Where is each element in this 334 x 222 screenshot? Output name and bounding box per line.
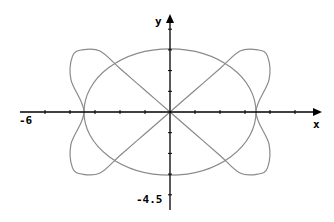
- axes: [20, 14, 322, 210]
- y-axis-label: y: [155, 15, 162, 28]
- x-axis-arrow-icon: [313, 108, 322, 116]
- y-min-label: -4.5: [136, 193, 163, 206]
- plot-canvas: x y -6 -4.5: [0, 0, 334, 222]
- x-min-label: -6: [19, 114, 33, 127]
- x-axis-label: x: [313, 118, 320, 131]
- y-axis-arrow-icon: [166, 14, 174, 23]
